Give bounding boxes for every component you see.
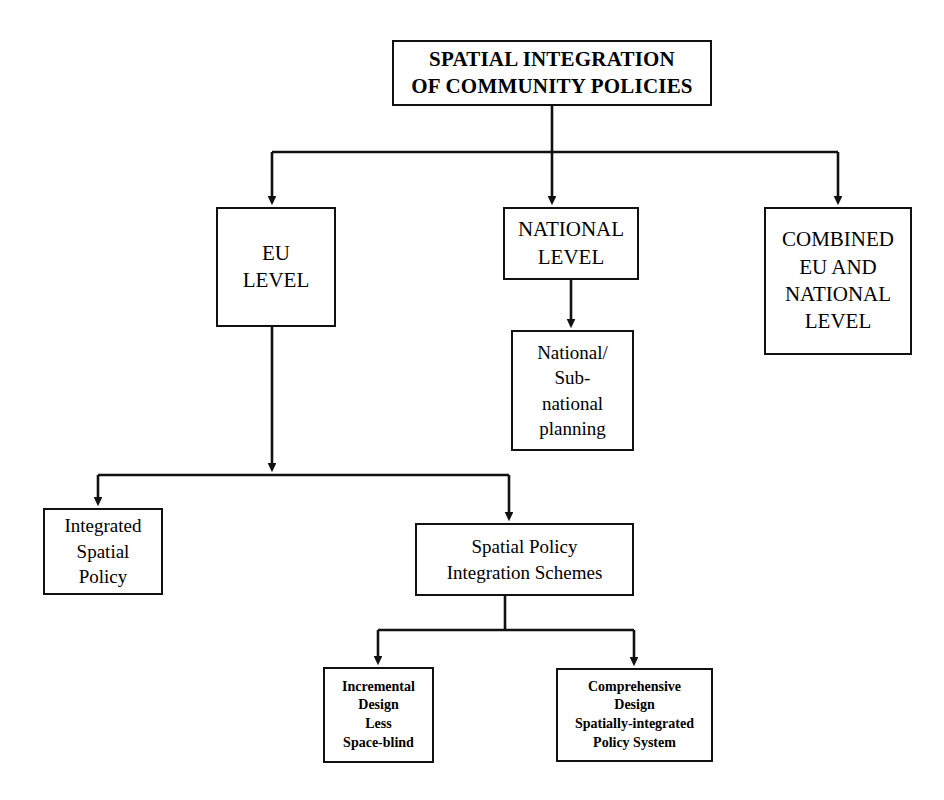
- node-combined-eu-and-national-level: COMBINED EU AND NATIONAL LEVEL: [764, 207, 912, 355]
- node-integrated-spatial-policy-label: Integrated Spatial Policy: [45, 513, 161, 589]
- node-incremental-design-label: Incremental Design Less Space-blind: [325, 678, 432, 752]
- connector-layer: [0, 0, 944, 800]
- node-national-level-label: NATIONAL LEVEL: [505, 216, 637, 271]
- node-comprehensive-design-label: Comprehensive Design Spatially-integrate…: [558, 678, 711, 752]
- node-comprehensive-design: Comprehensive Design Spatially-integrate…: [556, 668, 713, 762]
- node-root-label: SPATIAL INTEGRATION OF COMMUNITY POLICIE…: [394, 46, 710, 100]
- node-spatial-policy-integration-schemes-label: Spatial Policy Integration Schemes: [417, 534, 632, 585]
- node-national-level: NATIONAL LEVEL: [503, 207, 639, 280]
- flowchart-canvas: SPATIAL INTEGRATION OF COMMUNITY POLICIE…: [0, 0, 944, 800]
- node-eu-level-label: EU LEVEL: [218, 240, 334, 295]
- node-combined-level-label: COMBINED EU AND NATIONAL LEVEL: [766, 226, 910, 335]
- node-incremental-design: Incremental Design Less Space-blind: [323, 667, 434, 763]
- node-root-spatial-integration: SPATIAL INTEGRATION OF COMMUNITY POLICIE…: [392, 40, 712, 106]
- node-integrated-spatial-policy: Integrated Spatial Policy: [43, 508, 163, 595]
- node-national-subnational-planning-label: National/ Sub- national planning: [513, 340, 632, 442]
- node-spatial-policy-integration-schemes: Spatial Policy Integration Schemes: [415, 523, 634, 596]
- node-national-subnational-planning: National/ Sub- national planning: [511, 330, 634, 451]
- node-eu-level: EU LEVEL: [216, 207, 336, 327]
